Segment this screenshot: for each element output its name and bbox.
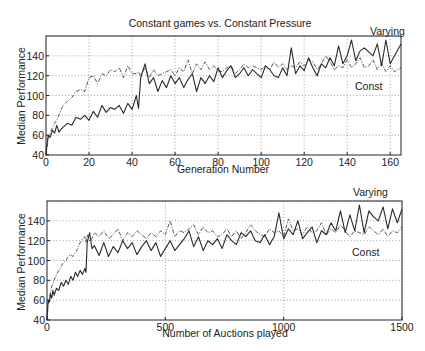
x-tick-label: 120 [295,156,313,168]
x-tick-label: 40 [126,156,138,168]
x-tick-label: 20 [83,156,95,168]
y-tick-label: 80 [33,274,45,286]
y-tick-label: 60 [32,129,44,141]
top-chart-ylabel: Median Performance [15,47,27,145]
y-tick-label: 100 [26,90,44,102]
bottom-chart-ticks: 050010001500406080100120140 [27,215,413,333]
x-tick-label: 160 [381,156,399,168]
x-tick-label: 1500 [390,321,414,333]
series-const-line [46,56,401,155]
y-tick-label: 140 [26,50,44,62]
y-tick-label: 40 [33,314,45,326]
top-chart-series [46,40,401,155]
bottom-chart-series [47,205,402,320]
bottom-chart: 050010001500406080100120140 Number of Au… [15,186,414,339]
y-tick-label: 140 [27,215,45,227]
bottom-annotation-varying: Varying [353,186,388,198]
y-tick-label: 40 [32,149,44,161]
top-annotation-varying: Varying [370,25,405,37]
bottom-chart-ylabel: Median Performance [15,213,27,311]
y-tick-label: 60 [33,294,45,306]
chart-figure: Constant games vs. Constant Pressure 020… [0,0,425,351]
x-tick-label: 140 [338,156,356,168]
y-tick-label: 100 [27,255,45,267]
top-chart: Constant games vs. Constant Pressure 020… [15,17,405,175]
top-chart-title: Constant games vs. Constant Pressure [129,17,312,29]
top-annotation-const: Const [355,80,383,92]
bottom-annotation-const: Const [352,246,380,258]
y-tick-label: 120 [27,235,45,247]
bottom-chart-xlabel: Number of Auctions played [162,327,288,339]
top-chart-xlabel: Generation Number [177,163,270,175]
y-tick-label: 80 [32,109,44,121]
series-const-line [47,219,402,320]
y-tick-label: 120 [26,70,44,82]
